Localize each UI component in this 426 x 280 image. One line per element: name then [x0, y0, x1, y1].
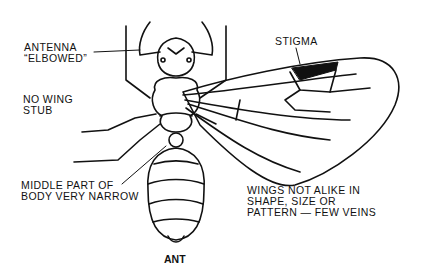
label-wings: WINGS NOT ALIKE INSHAPE, SIZE ORPATTERN …: [247, 185, 376, 218]
head: [158, 38, 195, 76]
label-stigma: STIGMA: [275, 36, 318, 47]
diagram-title: ANT: [164, 253, 186, 265]
legs: [74, 114, 216, 162]
label-middle-part: MIDDLE PART OFBODY VERY NARROW: [21, 180, 139, 202]
ant-diagram: ANTENNA“ELBOWED” NO WINGSTUB STIGMA MIDD…: [0, 0, 426, 280]
gaster: [148, 148, 205, 242]
label-antenna: ANTENNA“ELBOWED”: [24, 42, 87, 64]
petiole: [169, 133, 183, 147]
antennae: [126, 22, 226, 98]
wings: [183, 58, 399, 186]
label-no-wing-stub: NO WINGSTUB: [23, 94, 73, 116]
